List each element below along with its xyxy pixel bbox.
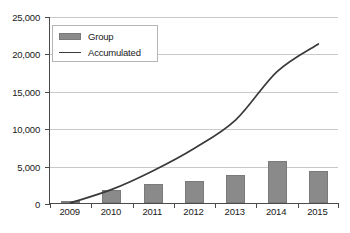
legend-item-accumulated: Accumulated <box>59 45 141 59</box>
legend-label: Accumulated <box>88 47 141 58</box>
x-axis-tick-label: 2014 <box>266 206 286 217</box>
x-axis-tick-label: 2015 <box>307 206 327 217</box>
x-axis-labels: 2009201020112012201320142015 <box>49 206 338 226</box>
x-axis-tick-label: 2010 <box>101 206 121 217</box>
accumulated-line-path <box>71 44 319 203</box>
y-axis-tick-label: 0 <box>35 199 40 210</box>
y-axis-labels: 25,000 20,000 15,000 10,000 5,000 0 <box>0 0 47 233</box>
bar-swatch-icon <box>59 33 81 40</box>
x-axis-tick-label: 2012 <box>183 206 203 217</box>
x-axis-tick-label: 2013 <box>225 206 245 217</box>
x-axis-tick <box>338 203 339 208</box>
y-axis-tick-label: 5,000 <box>17 161 40 172</box>
x-axis-tick-label: 2009 <box>59 206 79 217</box>
chart-legend: Group Accumulated <box>52 25 158 62</box>
legend-label: Group <box>88 31 113 42</box>
y-axis-tick-label: 25,000 <box>12 12 40 23</box>
legend-item-group: Group <box>59 29 113 43</box>
chart-container: 25,000 20,000 15,000 10,000 5,000 0 2009… <box>0 0 350 233</box>
y-axis-tick-label: 10,000 <box>12 124 40 135</box>
y-axis-tick-label: 15,000 <box>12 86 40 97</box>
x-axis-tick-label: 2011 <box>142 206 162 217</box>
y-axis-tick-label: 20,000 <box>12 49 40 60</box>
line-swatch-icon <box>59 52 81 53</box>
